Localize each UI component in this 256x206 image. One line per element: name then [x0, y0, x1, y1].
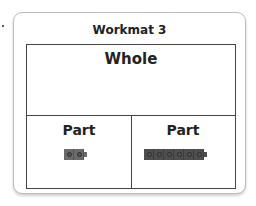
bullet-marker [2, 25, 4, 27]
workmat-card: Workmat 3 Whole Part Part [13, 12, 246, 194]
connecting-cube-icon [184, 149, 194, 160]
part-section-right: Part [131, 115, 235, 188]
connecting-cube-icon [174, 149, 184, 160]
connecting-cube-icon [164, 149, 174, 160]
cube-train-2 [64, 149, 87, 160]
connecting-cube-icon [74, 149, 84, 160]
cube-nub-icon [204, 152, 207, 157]
whole-section: Whole [27, 45, 235, 116]
connecting-cube-icon [154, 149, 164, 160]
cube-nub-icon [84, 152, 87, 157]
workmat-title: Workmat 3 [14, 23, 245, 37]
connecting-cube-icon [194, 149, 204, 160]
part-label-left: Part [27, 122, 131, 138]
part-label-right: Part [131, 122, 235, 138]
connecting-cube-icon [64, 149, 74, 160]
part-whole-mat: Whole Part Part [26, 44, 236, 189]
cube-train-6 [144, 149, 207, 160]
connecting-cube-icon [144, 149, 154, 160]
whole-label: Whole [27, 50, 235, 68]
part-section-left: Part [27, 115, 132, 188]
